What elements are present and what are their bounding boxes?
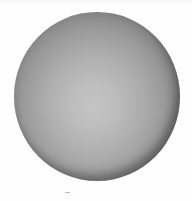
gray-sphere xyxy=(14,12,180,181)
small-mark xyxy=(65,192,70,193)
top-edge-strip xyxy=(0,0,192,4)
image-canvas xyxy=(0,0,192,201)
